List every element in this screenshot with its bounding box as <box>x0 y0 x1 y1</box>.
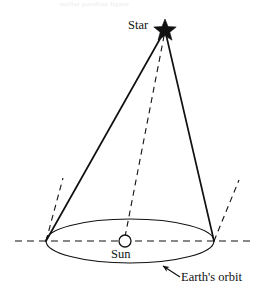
star-label: Star <box>128 19 148 32</box>
sun-label: Sun <box>111 248 130 261</box>
star-icon <box>154 19 176 40</box>
sun-circle-icon <box>119 235 131 247</box>
sight-line-left <box>46 30 165 241</box>
parallax-diagram: stellar parallax figure Star Sun Earth's… <box>0 0 261 302</box>
earths-orbit-label: Earth's orbit <box>181 271 242 284</box>
sight-line-right <box>165 30 214 241</box>
orbit-leader-arrow-icon <box>163 266 180 277</box>
sun-star-axis-line <box>125 31 165 237</box>
diagram-canvas <box>0 0 261 302</box>
tangent-right-extension-line <box>214 180 239 241</box>
top-caption: stellar parallax figure <box>60 1 129 8</box>
